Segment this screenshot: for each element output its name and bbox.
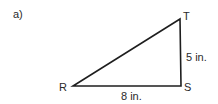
part-label: a) [13,8,23,20]
triangle-rst [73,19,181,86]
vertex-label-r: R [59,81,67,93]
vertex-label-s: S [184,81,191,93]
side-label-rs: 8 in. [121,90,142,102]
triangle-figure: a) T S R 5 in. 8 in. [0,0,218,104]
vertex-label-t: T [183,10,190,22]
side-label-st: 5 in. [186,51,207,63]
